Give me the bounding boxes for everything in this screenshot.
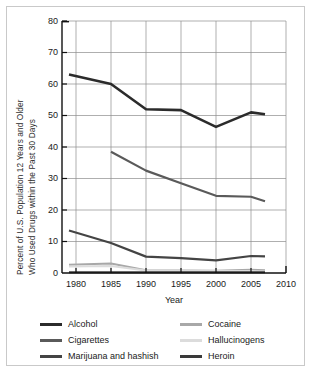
y-tick-label-20: 20 <box>36 206 58 215</box>
legend-row: Marijuana and hashishHeroin <box>40 348 280 364</box>
y-axis-title-line-1: Percent of U.S. Population 12 Years and … <box>15 99 25 275</box>
x-tick-label-1990: 1990 <box>129 279 163 289</box>
legend-label: Cigarettes <box>68 335 109 345</box>
x-tick-label-2010: 2010 <box>269 279 303 289</box>
x-tick-label-1985: 1985 <box>94 279 128 289</box>
y-tick-label-40: 40 <box>36 143 58 152</box>
legend-item-hallucinogens: Hallucinogens <box>180 335 280 345</box>
x-axis-tick-labels: 1980198519901995200020052010 <box>62 279 286 293</box>
legend-label: Heroin <box>208 351 235 361</box>
y-tick-label-80: 80 <box>36 17 58 26</box>
legend-item-marijuana-and-hashish: Marijuana and hashish <box>40 351 180 361</box>
y-axis-tick-labels: 01020304050607080 <box>34 21 58 273</box>
y-tick-label-10: 10 <box>36 237 58 246</box>
legend-item-cocaine: Cocaine <box>180 319 280 329</box>
legend-swatch-icon <box>180 323 202 326</box>
chart-figure: Percent of U.S. Population 12 Years and … <box>0 0 312 373</box>
legend-swatch-icon <box>40 355 62 358</box>
legend-label: Marijuana and hashish <box>68 351 159 361</box>
legend-item-heroin: Heroin <box>180 351 280 361</box>
legend-row: CigarettesHallucinogens <box>40 332 280 348</box>
legend-label: Cocaine <box>208 319 241 329</box>
x-axis-title: Year <box>62 295 286 305</box>
legend-swatch-icon <box>40 323 62 326</box>
legend-swatch-icon <box>40 339 62 342</box>
legend-swatch-icon <box>180 355 202 358</box>
chart-legend: AlcoholCocaineCigarettesHallucinogensMar… <box>40 316 280 364</box>
y-tick-label-60: 60 <box>36 80 58 89</box>
y-tick-label-0: 0 <box>36 269 58 278</box>
x-tick-label-1995: 1995 <box>164 279 198 289</box>
axis-spine <box>62 21 286 273</box>
legend-label: Hallucinogens <box>208 335 265 345</box>
legend-item-alcohol: Alcohol <box>40 319 180 329</box>
legend-row: AlcoholCocaine <box>40 316 280 332</box>
y-tick-label-30: 30 <box>36 174 58 183</box>
legend-swatch-icon <box>180 339 202 342</box>
x-tick-label-2000: 2000 <box>199 279 233 289</box>
y-tick-label-50: 50 <box>36 111 58 120</box>
x-tick-label-1980: 1980 <box>59 279 93 289</box>
x-tick-label-2005: 2005 <box>234 279 268 289</box>
legend-item-cigarettes: Cigarettes <box>40 335 180 345</box>
legend-label: Alcohol <box>68 319 98 329</box>
y-tick-label-70: 70 <box>36 48 58 57</box>
